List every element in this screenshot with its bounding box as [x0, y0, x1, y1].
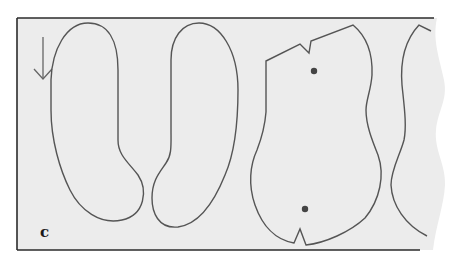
paper-sheet	[17, 18, 445, 250]
marker-dot-top	[311, 68, 317, 74]
panel-label: c	[40, 223, 49, 241]
pattern-figure: c	[0, 0, 462, 265]
marker-dot-bottom	[302, 206, 308, 212]
pattern-drawing	[0, 0, 462, 265]
